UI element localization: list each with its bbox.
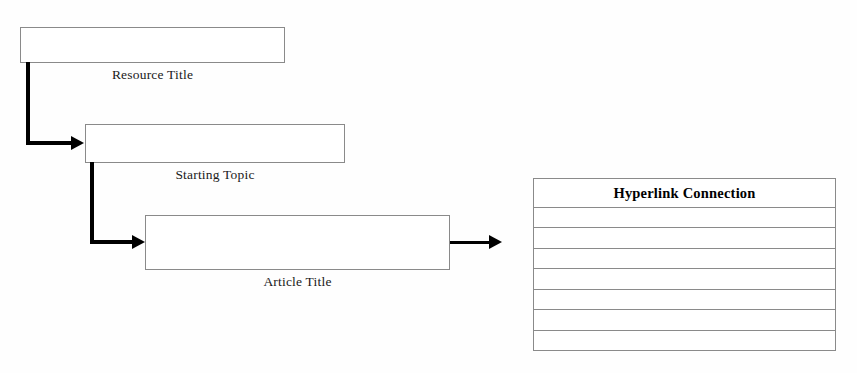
- hyperlink-connection-table[interactable]: Hyperlink Connection: [533, 178, 836, 351]
- table-row[interactable]: [534, 331, 835, 350]
- connector-resource-to-topic-horizontal: [26, 141, 73, 145]
- connector-resource-to-topic-vertical: [26, 62, 30, 145]
- node-resource-title[interactable]: [20, 27, 285, 63]
- connector-topic-to-article-vertical: [90, 162, 94, 244]
- table-row[interactable]: [534, 310, 835, 330]
- table-row[interactable]: [534, 249, 835, 269]
- arrowhead-resource-to-topic: [71, 136, 84, 150]
- diagram-canvas: Resource Title Starting Topic Article Ti…: [0, 0, 857, 373]
- node-starting-topic[interactable]: [85, 124, 345, 163]
- node-label-resource-title: Resource Title: [20, 67, 285, 83]
- table-row[interactable]: [534, 269, 835, 289]
- connector-article-to-table-line: [450, 241, 490, 244]
- node-label-article-title: Article Title: [145, 274, 450, 290]
- arrowhead-article-to-table: [489, 235, 502, 249]
- table-row[interactable]: [534, 290, 835, 310]
- connector-topic-to-article-horizontal: [90, 240, 134, 244]
- table-header-hyperlink-connection: Hyperlink Connection: [534, 179, 835, 208]
- arrowhead-topic-to-article: [132, 235, 145, 249]
- node-article-title[interactable]: [145, 215, 450, 270]
- node-label-starting-topic: Starting Topic: [85, 167, 345, 183]
- table-row[interactable]: [534, 228, 835, 248]
- table-row[interactable]: [534, 208, 835, 228]
